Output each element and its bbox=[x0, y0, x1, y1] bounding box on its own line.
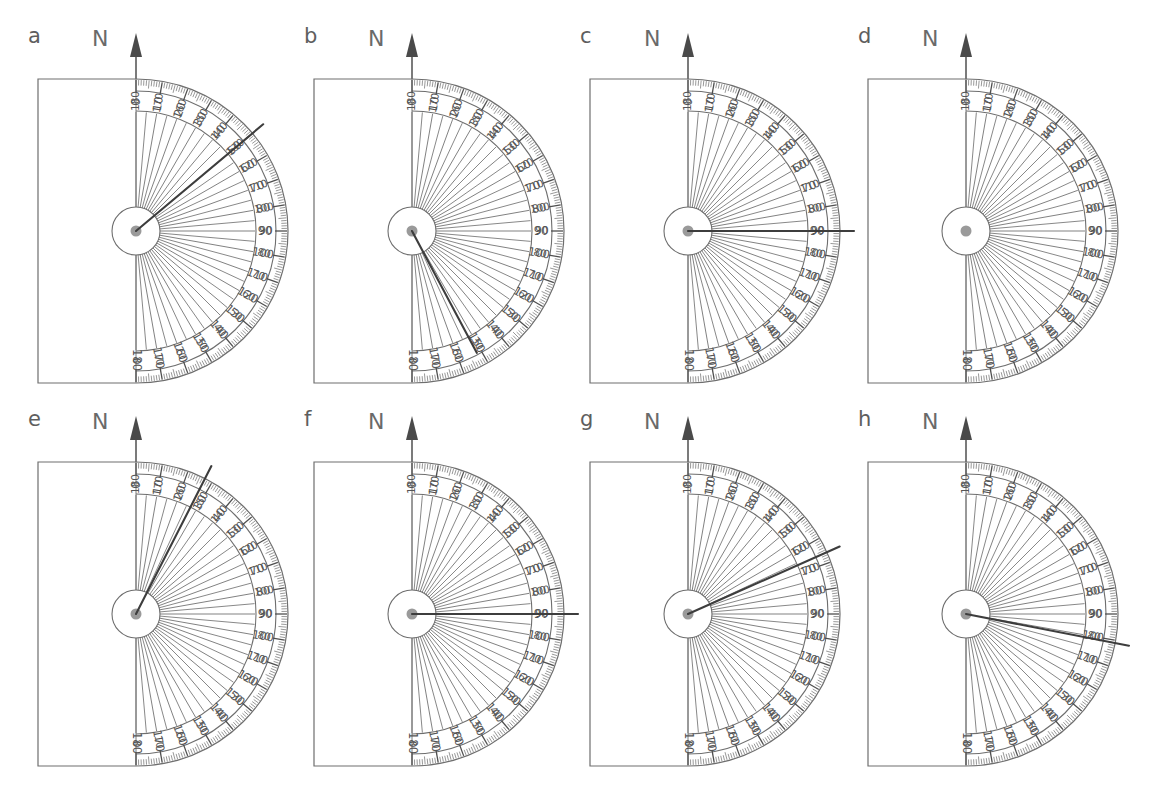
protractor-panel-c: cN01020304050607080901001101201301401501… bbox=[572, 24, 862, 404]
scale-label-inner: 80 bbox=[809, 246, 824, 260]
protractor-panel-h: hN01020304050607080901001101201301401501… bbox=[850, 407, 1140, 787]
scale-label-inner: 180 bbox=[129, 474, 141, 494]
protractor-drawing-b: 0102030405060708090100110120130140150160… bbox=[296, 24, 586, 404]
protractor-drawing-a: 0102030405060708090100110120130140150160… bbox=[20, 24, 310, 404]
scale-label-inner: 0 bbox=[961, 358, 973, 365]
north-arrow-icon bbox=[130, 33, 142, 85]
scale-label-inner: 0 bbox=[131, 741, 143, 748]
center-point-marker bbox=[961, 226, 972, 237]
protractor-drawing-e: 0102030405060708090100110120130140150160… bbox=[20, 407, 310, 787]
page-root: aN01020304050607080901001101201301401501… bbox=[0, 0, 1170, 812]
scale-label-inner: 180 bbox=[681, 474, 693, 494]
scale-label-inner: 10 bbox=[152, 734, 166, 749]
scale-label-inner: 0 bbox=[407, 741, 419, 748]
scale-label-inner: 90 bbox=[535, 224, 548, 236]
north-arrow-icon bbox=[406, 416, 418, 468]
scale-label-inner: 90 bbox=[1089, 607, 1102, 619]
scale-label-inner: 180 bbox=[405, 474, 417, 494]
protractor-panel-f: fN01020304050607080901001101201301401501… bbox=[296, 407, 586, 787]
scale-label-inner: 90 bbox=[259, 607, 272, 619]
cropped-header-text bbox=[0, 0, 1170, 12]
scale-label-inner: 90 bbox=[811, 607, 824, 619]
protractor-drawing-h: 0102030405060708090100110120130140150160… bbox=[850, 407, 1140, 787]
scale-label-inner: 80 bbox=[533, 629, 548, 643]
scale-label-inner: 0 bbox=[961, 741, 973, 748]
scale-label-inner: 0 bbox=[683, 358, 695, 365]
scale-label-inner: 10 bbox=[428, 734, 442, 749]
protractor-drawing-f: 0102030405060708090100110120130140150160… bbox=[296, 407, 586, 787]
north-arrow-icon bbox=[682, 416, 694, 468]
scale-label-inner: 10 bbox=[982, 734, 996, 749]
scale-label-inner: 80 bbox=[257, 246, 272, 260]
scale-label-inner: 10 bbox=[704, 734, 718, 749]
scale-label-inner: 180 bbox=[405, 91, 417, 111]
scale-label-inner: 10 bbox=[982, 351, 996, 366]
scale-label-inner: 180 bbox=[129, 91, 141, 111]
protractor-panel-a: aN01020304050607080901001101201301401501… bbox=[20, 24, 310, 404]
north-arrow-icon bbox=[960, 33, 972, 85]
scale-label-inner: 0 bbox=[683, 741, 695, 748]
scale-label-inner: 10 bbox=[152, 351, 166, 366]
north-arrow-icon bbox=[406, 33, 418, 85]
scale-label-inner: 0 bbox=[131, 358, 143, 365]
protractor-drawing-d: 0102030405060708090100110120130140150160… bbox=[850, 24, 1140, 404]
protractor-drawing-c: 0102030405060708090100110120130140150160… bbox=[572, 24, 862, 404]
scale-label-inner: 80 bbox=[809, 629, 824, 643]
north-arrow-icon bbox=[960, 416, 972, 468]
scale-label-inner: 90 bbox=[1089, 224, 1102, 236]
protractor-drawing-g: 0102030405060708090100110120130140150160… bbox=[572, 407, 862, 787]
scale-label-inner: 80 bbox=[257, 629, 272, 643]
scale-label-inner: 80 bbox=[1087, 246, 1102, 260]
north-arrow-icon bbox=[130, 416, 142, 468]
protractor-panel-b: bN01020304050607080901001101201301401501… bbox=[296, 24, 586, 404]
scale-label-inner: 10 bbox=[704, 351, 718, 366]
protractor-panel-d: dN01020304050607080901001101201301401501… bbox=[850, 24, 1140, 404]
protractor-panel-e: eN01020304050607080901001101201301401501… bbox=[20, 407, 310, 787]
scale-label-inner: 80 bbox=[533, 246, 548, 260]
scale-label-inner: 90 bbox=[259, 224, 272, 236]
scale-label-inner: 180 bbox=[681, 91, 693, 111]
scale-label-inner: 10 bbox=[428, 351, 442, 366]
scale-label-inner: 0 bbox=[407, 358, 419, 365]
scale-label-inner: 180 bbox=[959, 91, 971, 111]
scale-label-inner: 180 bbox=[959, 474, 971, 494]
north-arrow-icon bbox=[682, 33, 694, 85]
protractor-panel-g: gN01020304050607080901001101201301401501… bbox=[572, 407, 862, 787]
